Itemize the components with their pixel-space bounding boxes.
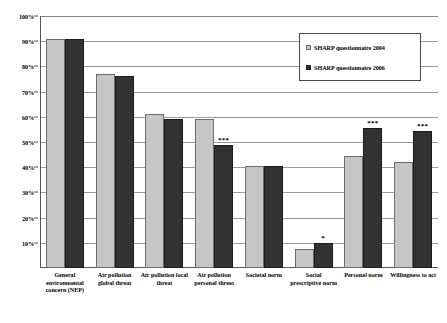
x-axis-label: Air pollution personal threat [189,272,239,295]
significance-marker: *** [417,123,428,130]
y-axis-tick-mark [34,16,38,17]
x-axis-label: Air pollution global threat [90,272,140,295]
x-axis-label: Social prescriptive norm [289,272,339,295]
significance-marker: *** [218,137,229,144]
bar: *** [214,145,233,268]
bar-group [239,16,289,268]
x-axis-label: General environmental concern (NEP) [40,272,90,295]
legend-item: SHARP questionnaire 2006 [306,64,414,71]
y-axis-tick-label: 90% [22,38,34,45]
x-axis-labels: General environmental concern (NEP)Air p… [40,272,438,295]
bar [46,39,65,268]
y-axis-tick-mark [34,242,38,243]
bar [96,74,115,268]
y-axis-tick-label: 60% [22,113,34,120]
y-axis-tick-label: 40% [22,164,34,171]
legend-label: SHARP questionnaire 2006 [314,64,385,71]
bar [394,162,413,268]
y-axis-tick-label: 30% [22,189,34,196]
bar [164,119,183,268]
bar: *** [413,131,432,268]
legend-label: SHARP questionnaire 2004 [314,44,385,51]
y-axis-tick-label: 50% [22,139,34,146]
y-axis-tick-label: 10% [22,239,34,246]
bar [195,119,214,268]
y-axis-tick-mark [34,192,38,193]
y-axis-tick-mark [34,41,38,42]
legend-item: SHARP questionnaire 2004 [306,44,414,51]
bar [295,249,314,268]
x-axis-label: Willingness to act [388,272,438,295]
bar [145,114,164,268]
y-axis-tick-mark [34,66,38,67]
y-axis-tick-label: 20% [22,214,34,221]
bar: * [314,243,333,268]
y-axis-tick-label: 70% [22,88,34,95]
y-axis-tick-mark [34,91,38,92]
bar-group: *** [189,16,239,268]
x-axis-label: Personal norm [339,272,389,295]
bar [65,39,84,268]
bar-group [90,16,140,268]
y-axis-tick-label: 100% [19,13,34,20]
legend: SHARP questionnaire 2004 SHARP questionn… [299,33,421,81]
significance-marker: *** [367,120,378,127]
bar [344,156,363,268]
bar-group [140,16,190,268]
y-axis: 100%90%80%70%60%50%40%30%20%10% [0,16,38,268]
bar-group [40,16,90,268]
legend-swatch-2004-icon [306,45,311,50]
bar [245,166,264,268]
bar: *** [363,128,382,268]
significance-marker: * [321,235,325,242]
x-axis-label: Air pollution local threat [140,272,190,295]
y-axis-tick-mark [34,217,38,218]
y-axis-tick-mark [34,116,38,117]
bar-chart: 100%90%80%70%60%50%40%30%20%10% ********… [0,0,447,323]
y-axis-tick-label: 80% [22,63,34,70]
legend-swatch-2006-icon [306,65,311,70]
x-axis-label: Societal norm [239,272,289,295]
bar [264,166,283,268]
y-axis-tick-mark [34,142,38,143]
bar [115,76,134,268]
y-axis-tick-mark [34,167,38,168]
